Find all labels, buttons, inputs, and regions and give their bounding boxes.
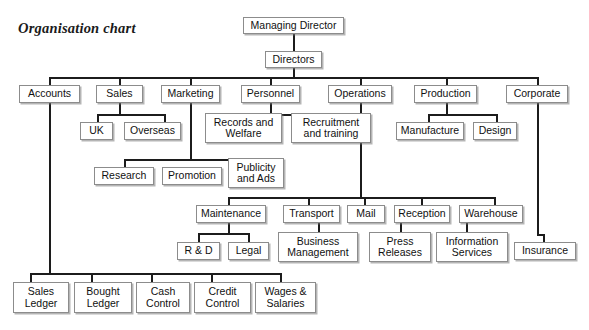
node-label: Credit Control [197,286,248,309]
node-label: Corporate [509,88,565,100]
node-label: UK [83,125,110,137]
node-label: Insurance [517,245,573,257]
node-promotion[interactable]: Promotion [162,167,222,185]
chart-title: Organisation chart [18,20,136,37]
node-directors[interactable]: Directors [265,51,322,68]
connector-sales-bus [97,114,166,116]
node-uk[interactable]: UK [80,122,113,140]
node-label: Research [97,170,151,182]
node-label: Overseas [127,125,178,137]
node-label: Transport [286,208,337,220]
node-sales-ledger[interactable]: Sales Ledger [13,282,69,313]
connector-accounts-down [49,103,51,275]
node-information-services[interactable]: Information Services [436,232,508,262]
node-legal[interactable]: Legal [228,242,269,260]
node-press-releases[interactable]: Press Releases [369,232,431,262]
connector-maintenance-bus [198,233,250,235]
node-label: Sales Ledger [16,286,66,309]
node-publicity-and-ads[interactable]: Publicity and Ads [228,158,284,188]
node-label: Cash Control [139,286,187,309]
node-business-management[interactable]: Business Management [278,232,358,262]
node-label: Recruitment and training [294,117,368,140]
node-label: Information Services [439,236,505,259]
node-credit-control[interactable]: Credit Control [194,282,251,313]
node-label: Reception [397,208,447,220]
node-personnel[interactable]: Personnel [241,85,300,103]
node-sales[interactable]: Sales [96,85,143,103]
node-bought-ledger[interactable]: Bought Ledger [74,282,132,313]
connector-marketing-bus [124,159,231,161]
node-label: Maintenance [199,208,263,220]
node-label: Personnel [244,88,297,100]
node-label: R & D [180,245,217,257]
node-mail[interactable]: Mail [347,205,385,223]
node-marketing[interactable]: Marketing [161,85,220,103]
node-label: Business Management [281,236,355,259]
node-label: Promotion [165,170,219,182]
node-label: Wages & Salaries [258,286,313,309]
node-corporate[interactable]: Corporate [506,85,568,103]
node-overseas[interactable]: Overseas [124,122,181,140]
node-label: Records and Welfare [208,117,279,140]
node-label: Operations [331,88,389,100]
node-label: Mail [350,208,382,220]
node-design[interactable]: Design [473,122,517,140]
node-manufacture[interactable]: Manufacture [396,122,464,140]
connector-production-bus [428,114,498,116]
node-reception[interactable]: Reception [394,205,450,223]
connector-md-to-directors [293,33,295,52]
node-r-and-d[interactable]: R & D [177,242,220,260]
connector-corporate-down [537,103,539,236]
node-warehouse[interactable]: Warehouse [459,205,523,223]
node-label: Manufacture [399,125,461,137]
connector-directors-bus [49,77,539,79]
node-label: Press Releases [372,236,428,259]
node-accounts[interactable]: Accounts [19,85,80,103]
node-production[interactable]: Production [414,85,477,103]
node-label: Publicity and Ads [231,162,281,185]
node-recruitment-and-training[interactable]: Recruitment and training [291,113,371,143]
node-records-and-welfare[interactable]: Records and Welfare [205,113,282,143]
node-cash-control[interactable]: Cash Control [136,282,190,313]
node-transport[interactable]: Transport [283,205,340,223]
node-managing-director[interactable]: Managing Director [243,17,344,34]
node-wages-and-salaries[interactable]: Wages & Salaries [255,282,316,313]
node-label: Production [417,88,474,100]
organisation-chart: Organisation chart [0,0,589,330]
connector-marketing-down [190,103,192,161]
node-label: Directors [268,54,319,66]
node-research[interactable]: Research [94,167,154,185]
connector-accounts-bus [30,273,282,275]
node-label: Design [476,125,514,137]
node-operations[interactable]: Operations [328,85,392,103]
node-insurance[interactable]: Insurance [514,242,576,260]
node-label: Bought Ledger [77,286,129,309]
node-label: Warehouse [462,208,520,220]
node-label: Managing Director [246,20,341,32]
node-label: Sales [99,88,140,100]
node-maintenance[interactable]: Maintenance [196,205,266,223]
node-label: Legal [231,245,266,257]
node-label: Accounts [22,88,77,100]
node-label: Marketing [164,88,217,100]
connector-operations-bus [228,197,496,199]
